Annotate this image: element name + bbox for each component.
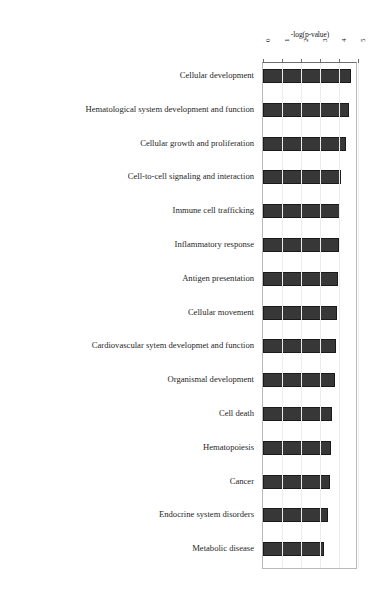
plot-area xyxy=(262,62,357,569)
category-label: Cellular growth and proliferation xyxy=(0,139,254,148)
category-label: Immune cell trafficking xyxy=(0,206,254,215)
category-label: Cancer xyxy=(0,477,254,486)
category-label: Hematopoiesis xyxy=(0,443,254,452)
grid-line xyxy=(339,63,340,568)
bar xyxy=(263,137,346,151)
x-tick-label: 5 xyxy=(360,39,367,43)
x-tick-mark xyxy=(263,59,264,63)
category-label: Cell death xyxy=(0,409,254,418)
bar xyxy=(263,373,335,387)
bar xyxy=(263,508,328,522)
bar xyxy=(263,103,349,117)
x-tick-label: 4 xyxy=(341,39,348,43)
category-label: Cellular movement xyxy=(0,308,254,317)
category-label: Cellular development xyxy=(0,71,254,80)
category-label: Metabolic disease xyxy=(0,544,254,553)
x-tick-label: 0 xyxy=(265,39,272,43)
grid-line xyxy=(320,63,321,568)
category-label: Hematological system development and fun… xyxy=(0,105,254,114)
category-label: Endocrine system disorders xyxy=(0,510,254,519)
bar xyxy=(263,339,336,353)
bar xyxy=(263,542,324,556)
grid-line xyxy=(282,63,283,568)
bars-layer xyxy=(263,63,356,568)
grid-line xyxy=(358,63,359,568)
category-label: Cell-to-cell signaling and interaction xyxy=(0,172,254,181)
x-tick-label: 3 xyxy=(322,39,329,43)
x-tick-label: 1 xyxy=(284,39,291,43)
category-label: Inflammatory response xyxy=(0,240,254,249)
category-label: Organismal development xyxy=(0,375,254,384)
bar xyxy=(263,441,331,455)
x-tick-label: 2 xyxy=(303,39,310,43)
bar-chart: -log(p-value) 012345 Cellular developmen… xyxy=(0,0,373,594)
category-label: Cardiovascular sytem developmet and func… xyxy=(0,341,254,350)
grid-line xyxy=(301,63,302,568)
category-label: Antigen presentation xyxy=(0,274,254,283)
bar xyxy=(263,407,332,421)
